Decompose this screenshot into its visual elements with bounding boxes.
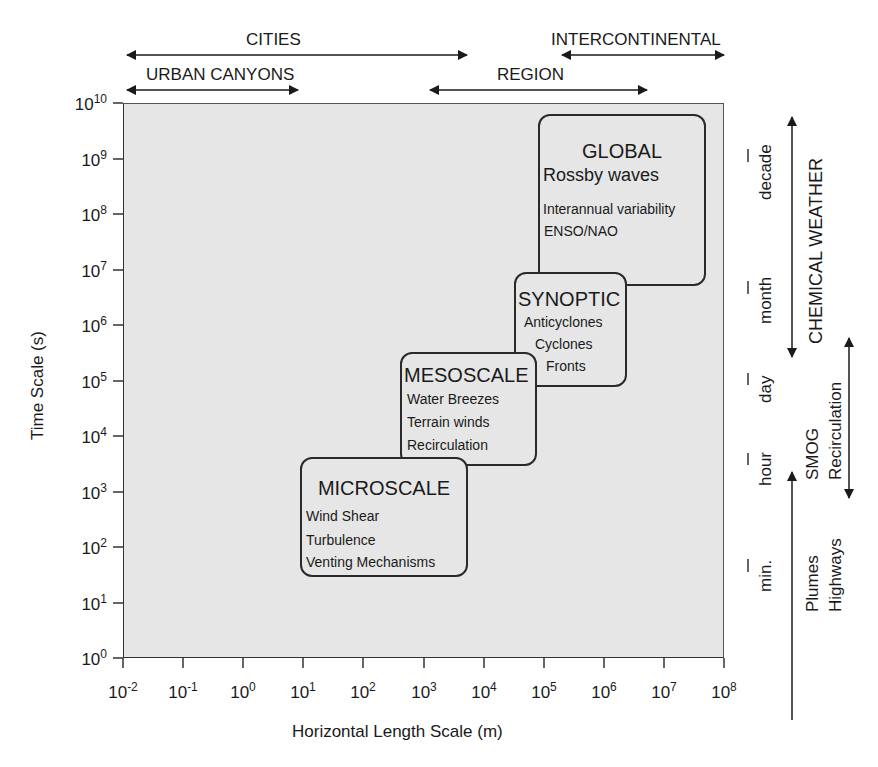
- y-tick-label: 101: [47, 592, 107, 615]
- mesoscale-item: Water Breezes: [407, 390, 535, 408]
- time-marker-decade: decade: [756, 144, 776, 200]
- microscale-item: Venting Mechanisms: [306, 553, 466, 571]
- recirculation-label: Recirculation: [826, 382, 846, 480]
- y-tick-label: 106: [47, 314, 107, 337]
- y-tick-label: 100: [47, 647, 107, 670]
- mesoscale-item: Terrain winds: [407, 413, 535, 431]
- plumes-label: Plumes: [803, 555, 823, 612]
- x-tick-label: 105: [514, 680, 574, 703]
- global-subtitle: Rossby waves: [543, 164, 704, 186]
- x-tick-label: 108: [694, 680, 754, 703]
- x-tick-label: 10-2: [93, 680, 153, 703]
- y-tick-labels: 1010 109 108 107 106 105 104 103 102 101…: [47, 92, 107, 652]
- time-marker-hour: hour: [756, 452, 776, 486]
- mesoscale-title: MESOSCALE: [404, 364, 535, 386]
- y-tick-label: 1010: [47, 92, 107, 115]
- microscale-item: Turbulence: [306, 531, 466, 549]
- microscale-item: Wind Shear: [306, 507, 466, 525]
- y-axis-ticks: [113, 103, 123, 658]
- y-tick-label: 104: [47, 425, 107, 448]
- synoptic-item: Fronts: [546, 357, 625, 375]
- chemical-weather-label: CHEMICAL WEATHER: [806, 158, 827, 344]
- x-tick-label: 106: [574, 680, 634, 703]
- y-tick-label: 109: [47, 148, 107, 171]
- y-tick-label: 103: [47, 481, 107, 504]
- x-tick-label: 102: [333, 680, 393, 703]
- global-item: ENSO/NAO: [544, 222, 704, 240]
- x-tick-label: 101: [273, 680, 333, 703]
- intercontinental-label: INTERCONTINENTAL: [551, 30, 721, 50]
- y-axis-label: Time Scale (s): [28, 331, 48, 440]
- global-title: GLOBAL: [540, 140, 704, 162]
- x-tick-label: 103: [394, 680, 454, 703]
- x-tick-label: 100: [213, 680, 273, 703]
- microscale-title: MICROSCALE: [302, 477, 466, 499]
- x-axis-label: Horizontal Length Scale (m): [292, 722, 503, 742]
- y-tick-label: 108: [47, 203, 107, 226]
- synoptic-item: Anticyclones: [524, 313, 625, 331]
- x-tick-label: 10-1: [153, 680, 213, 703]
- synoptic-title: SYNOPTIC: [518, 288, 625, 310]
- urban-canyons-label: URBAN CANYONS: [146, 65, 294, 85]
- mesoscale-box: MESOSCALE Water Breezes Terrain winds Re…: [400, 352, 537, 466]
- y-tick-label: 102: [47, 536, 107, 559]
- x-tick-label: 107: [634, 680, 694, 703]
- global-item: Interannual variability: [543, 200, 704, 218]
- x-tick-label: 104: [454, 680, 514, 703]
- time-marker-day: day: [756, 376, 776, 403]
- smog-label: SMOG: [803, 428, 823, 480]
- y-tick-label: 105: [47, 370, 107, 393]
- region-label: REGION: [497, 65, 564, 85]
- microscale-box: MICROSCALE Wind Shear Turbulence Venting…: [300, 457, 468, 577]
- y-tick-label: 107: [47, 259, 107, 282]
- highways-label: Highways: [826, 538, 846, 612]
- mesoscale-item: Recirculation: [407, 436, 535, 454]
- cities-label: CITIES: [246, 30, 301, 50]
- synoptic-item: Cyclones: [535, 335, 625, 353]
- time-marker-min: min.: [756, 560, 776, 592]
- global-box: GLOBAL Rossby waves Interannual variabil…: [538, 114, 706, 286]
- time-marker-month: month: [756, 277, 776, 324]
- x-axis-ticks: [123, 658, 724, 668]
